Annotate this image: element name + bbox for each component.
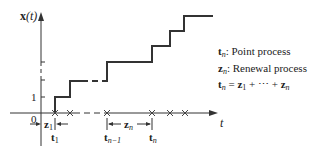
legend: tn: Point process zn: Renewal process tn… (218, 45, 307, 95)
zn-arrow-left-icon (108, 122, 113, 126)
legend-text: Point process (231, 45, 290, 57)
legend-sep: : (226, 45, 229, 57)
formula-eq: = (226, 78, 238, 90)
tn-label-sub: n (153, 136, 157, 145)
tn-1-label-sub: n−1 (108, 136, 121, 145)
step-function-end (103, 16, 213, 81)
z1-arrow-icon (56, 122, 61, 126)
y-axis-label: x(t) (20, 10, 37, 22)
t1-label: t1 (51, 132, 59, 145)
y-axis-arrow-icon (38, 12, 44, 21)
formula-term2-sub: n (286, 83, 290, 92)
legend-item-point-process: tn: Point process (218, 45, 307, 62)
legend-formula: tn = z1 + ⋯ + zn (218, 78, 307, 95)
y-tick-label-1: 1 (31, 92, 37, 103)
formula-mid: + ⋯ + (246, 78, 280, 90)
t1-label-sub: 1 (55, 136, 59, 145)
y-axis-label-arg: (t) (26, 9, 37, 23)
tn-label: tn (149, 132, 157, 145)
tn-1-label: tn−1 (104, 132, 121, 145)
x-axis-arrow-icon (209, 110, 218, 116)
step-function-start (55, 81, 82, 113)
legend-sep: : (227, 62, 230, 74)
legend-text: Renewal process (233, 62, 307, 74)
x-axis-label: t (220, 117, 223, 129)
zn-arrow-right-icon (146, 122, 151, 126)
zn-label: zn (124, 119, 133, 132)
origin-label: 0 (31, 114, 37, 125)
legend-item-renewal-process: zn: Renewal process (218, 62, 307, 79)
zn-label-sub: n (129, 123, 133, 132)
